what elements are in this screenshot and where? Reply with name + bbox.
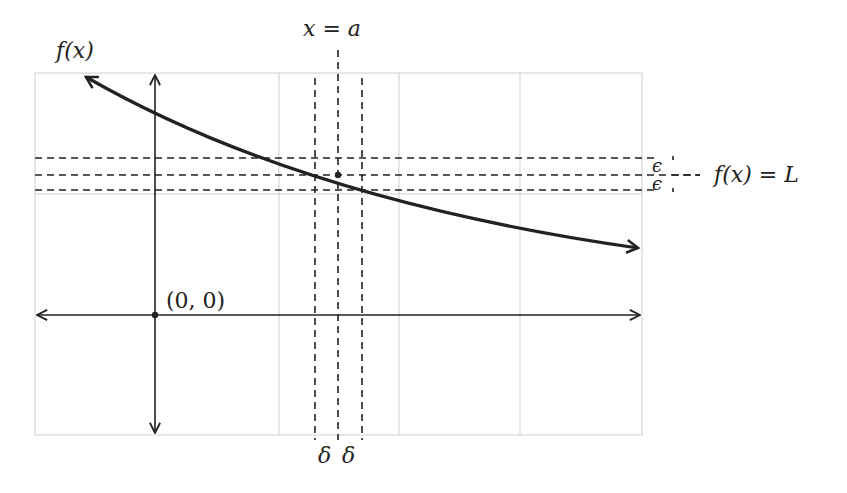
origin-label: (0, 0) (166, 288, 225, 313)
limit-diagram: f(x) x = a f(x) = L (0, 0) ϵ ϵ δ δ (0, 0, 847, 493)
delta-left-label: δ (318, 443, 331, 468)
horizontal-line-label: f(x) = L (712, 162, 799, 187)
epsilon-lower-label: ϵ (652, 173, 662, 194)
epsilon-band (35, 156, 700, 192)
y-axis-label: f(x) (54, 38, 94, 63)
vertical-line-label: x = a (303, 16, 361, 41)
origin-point (152, 312, 158, 318)
delta-right-label: δ (342, 443, 355, 468)
limit-point (335, 172, 341, 178)
delta-band (315, 50, 362, 440)
